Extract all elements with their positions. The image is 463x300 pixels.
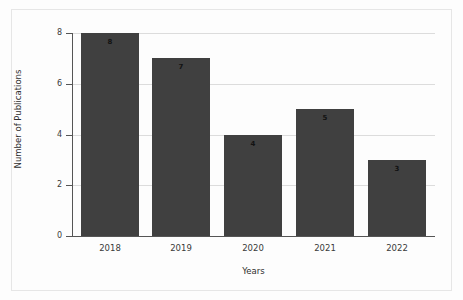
x-axis-title: Years — [72, 266, 435, 276]
x-tick-labels: 2018 2019 2020 2021 2022 — [72, 0, 435, 300]
y-tick-labels: 8 6 4 2 0 — [30, 0, 62, 300]
y-tick-label-8: 8 — [36, 29, 62, 37]
x-tick-label-2018: 2018 — [80, 243, 140, 253]
x-tick-label-2022: 2022 — [367, 243, 427, 253]
y-tick-label-2: 2 — [36, 181, 62, 189]
y-tick-label-0: 0 — [36, 232, 62, 240]
x-tick-label-2020: 2020 — [223, 243, 283, 253]
y-axis-title: Number of Publications — [13, 39, 23, 199]
y-tick-label-6: 6 — [36, 80, 62, 88]
x-tick-label-2019: 2019 — [151, 243, 211, 253]
x-tick-label-2021: 2021 — [295, 243, 355, 253]
bar-chart-figure: 8 7 4 5 3 8 6 4 2 0 2018 2019 2020 2021 … — [0, 0, 463, 300]
y-tick-label-4: 4 — [36, 131, 62, 139]
